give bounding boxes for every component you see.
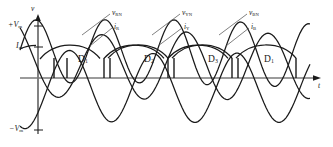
tick-label-peak-negative-sub: m [19,128,23,133]
tick-label-peak-negative-text: −V [9,124,19,133]
conduction-label-3-text: D [208,54,215,64]
conduction-label-4-sub: 1 [271,58,274,64]
curve-label-i-Y-sub: Y [186,26,189,31]
tick-label-peak-positive-text: +V [8,20,18,29]
leader-v-BN [219,14,247,35]
curve-label-v-BN-sub: BN [252,12,258,17]
curve-label-v-YN-sub: YN [185,12,192,17]
conduction-label-1-text: D [78,54,85,64]
tick-label-peak-negative: −Vm [9,125,23,134]
curve-label-i-B: iB [251,23,256,31]
curve-label-v-YN: vYN [182,9,192,17]
tick-label-peak-positive: +Vm [8,21,22,30]
voltage-curves-group [20,20,310,129]
x-axis-label: t [318,82,320,90]
curve-label-v-RN-sub: RN [115,12,121,17]
curve-label-i-Y: iY [184,23,189,31]
conduction-label-3: D3 [208,55,218,65]
curve-i-R [40,45,100,59]
waveform-figure: v t +Vm Im −Vm vRN vYN vBN iR iY iB D1 D… [0,0,333,147]
curve-label-i-R-sub: R [116,26,119,31]
conduction-label-3-sub: 3 [215,58,218,64]
tick-label-current-level-sub: m [19,45,23,50]
tick-label-peak-positive-sub: m [18,24,22,29]
waveform-plot [0,0,333,147]
x-axis-arrow [313,75,321,81]
leader-v-YN [152,14,180,35]
y-axis-label: v [31,5,34,13]
conduction-label-1-sub: 1 [85,58,88,64]
conduction-label-1: D1 [78,55,88,65]
curve-label-v-BN: vBN [249,9,259,17]
curve-label-v-RN: vRN [112,9,122,17]
axes-group [20,14,321,134]
curve-label-i-B-sub: B [253,26,256,31]
curve-label-i-R: iR [114,23,119,31]
conduction-label-2-text: D [144,54,151,64]
conduction-label-2-sub: 2 [151,58,154,64]
curve-i-B [168,45,228,58]
conduction-label-4: D1 [264,55,274,65]
tick-label-current-level: Im [16,42,23,51]
conduction-label-4-text: D [264,54,271,64]
conduction-label-2: D2 [144,55,154,65]
